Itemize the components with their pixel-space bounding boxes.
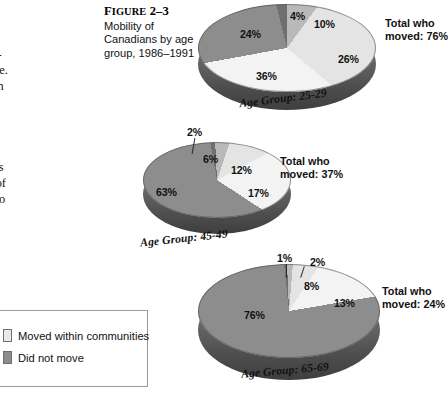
legend-swatch-did-not-move	[3, 351, 12, 364]
pie3-label-4: 76%	[244, 309, 265, 321]
legend-label-did-not-move: Did not move	[18, 352, 84, 364]
pie1-total-note: Total who moved: 76%	[385, 17, 448, 43]
pie3-total-note: Total who moved: 24%	[382, 285, 445, 311]
legend-item-did-not-move: Did not move	[3, 351, 84, 364]
figure-number-value: 2–3	[150, 4, 169, 18]
legend-item-moved-within-communities: Moved within communities	[3, 329, 149, 342]
pie1-label-2: 26%	[338, 53, 359, 65]
pie2-label-2: 12%	[231, 164, 252, 176]
pie3-total-note-line2: moved: 24%	[382, 298, 445, 311]
pie3-label-2: 8%	[304, 280, 319, 292]
pie3-label-3: 13%	[334, 297, 355, 309]
legend-label-moved-within-communities: Moved within communities	[18, 330, 149, 342]
pie2-total-note: Total who moved: 37%	[280, 155, 343, 181]
body-text-column: a commu- of students r school. nity popu…	[0, 0, 110, 239]
pie1-label-0: 4%	[290, 10, 305, 22]
figure-title: Mobility of Canadians by age group, 1986…	[104, 20, 196, 60]
pie1-label-1: 10%	[314, 18, 335, 30]
pie3-label-0: 1%	[277, 252, 292, 264]
pie-chart-65-69: 1% 2% 8% 13% 76% Age Group: 65-69 Total …	[194, 252, 429, 392]
pie2-label-4: 63%	[156, 186, 177, 198]
pie1-label-3: 36%	[256, 70, 277, 82]
pie-top-1	[198, 4, 376, 92]
figure-number: FIGURE 2–3	[104, 4, 196, 19]
pie3-label-1: 2%	[310, 256, 325, 268]
figure-caption: FIGURE 2–3 Mobility of Canadians by age …	[104, 4, 196, 60]
pie2-label-0: 2%	[187, 126, 202, 138]
pie-chart-25-29: 4% 10% 26% 36% 24% Age Group: 25-29 Tota…	[196, 0, 429, 128]
pie2-label-3: 17%	[248, 187, 269, 199]
pie-top-3	[198, 264, 380, 358]
pie3-total-note-line1: Total who	[382, 285, 445, 298]
legend-swatch-moved-within-communities	[3, 329, 12, 342]
pie1-total-note-line1: Total who	[385, 17, 448, 30]
legend-box: Moved within communities Did not move	[0, 310, 148, 387]
figure-number-igure: IGURE	[112, 6, 147, 17]
pie3-leader-0	[286, 264, 287, 278]
figure-number-f: F	[104, 4, 112, 18]
pie-slices-1	[198, 4, 376, 92]
pie-slices-3	[198, 264, 380, 358]
pie2-label-1: 6%	[203, 153, 218, 165]
pie1-label-4: 24%	[240, 28, 261, 40]
pie1-total-note-line2: moved: 76%	[385, 30, 448, 43]
pie2-total-note-line1: Total who	[280, 155, 343, 168]
pie2-total-note-line2: moved: 37%	[280, 168, 343, 181]
pie-chart-45-49: 2% 6% 12% 17% 63% Age Group: 45-49 Total…	[143, 126, 429, 256]
